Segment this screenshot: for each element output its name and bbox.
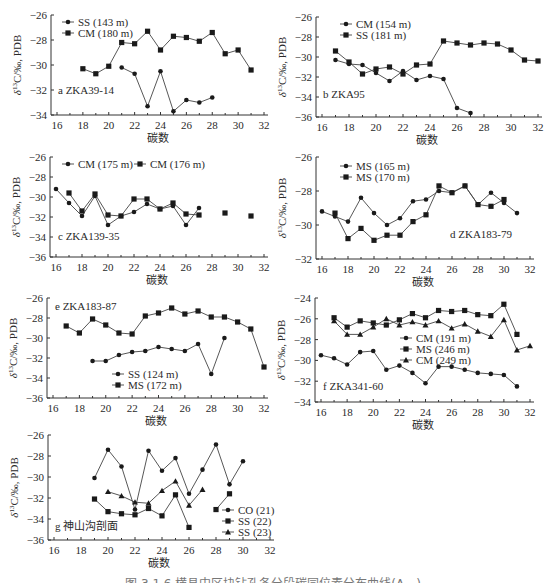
y-tick-label: −28 bbox=[27, 450, 45, 462]
x-tick-label: 30 bbox=[499, 263, 511, 275]
y-tick-label: −34 bbox=[294, 396, 312, 408]
figure-grid: −34−32−30−28−26161820222426283032碳数δ13C/… bbox=[0, 0, 546, 583]
legend-marker bbox=[66, 20, 71, 25]
y-tick-label: −32 bbox=[294, 375, 311, 387]
data-point bbox=[80, 66, 85, 71]
data-point bbox=[360, 71, 365, 76]
data-point bbox=[462, 367, 467, 372]
data-point bbox=[358, 350, 363, 355]
y-tick-label: −26 bbox=[295, 11, 313, 23]
data-point bbox=[241, 459, 246, 464]
y-axis-title: δ13C/‰, PDB bbox=[10, 177, 22, 237]
y-tick-label: −28 bbox=[295, 31, 313, 43]
legend: MS (165 m)MS (170 m) bbox=[340, 160, 410, 184]
x-tick-label: 22 bbox=[130, 544, 141, 556]
x-tick-label: 30 bbox=[506, 121, 518, 133]
legend: CM (154 m)SS (181 m) bbox=[340, 18, 411, 42]
data-point bbox=[248, 213, 253, 218]
x-axis-title: 碳数 bbox=[146, 273, 168, 286]
y-axis-title: δ13C/‰, PDB bbox=[11, 35, 23, 95]
panel-label: g 神山沟剖面 bbox=[55, 519, 118, 532]
series-cm-176-m- bbox=[66, 190, 253, 218]
y-tick-label: −36 bbox=[27, 534, 45, 546]
legend-label: CM (249 m) bbox=[416, 354, 471, 367]
data-point bbox=[501, 317, 507, 322]
data-point bbox=[131, 196, 136, 201]
data-point bbox=[200, 467, 205, 472]
data-point bbox=[222, 336, 227, 341]
legend-marker bbox=[116, 372, 121, 377]
data-point bbox=[449, 309, 454, 314]
data-point bbox=[145, 202, 150, 207]
x-axis-title: 碳数 bbox=[148, 556, 170, 569]
data-point bbox=[423, 315, 428, 320]
data-point bbox=[410, 311, 415, 316]
legend-label: SS (181 m) bbox=[356, 29, 406, 42]
x-tick-label: 24 bbox=[155, 119, 167, 131]
data-point bbox=[144, 196, 149, 201]
charts-svg: −34−32−30−28−26161820222426283032碳数δ13C/… bbox=[0, 0, 546, 583]
x-tick-label: 30 bbox=[498, 406, 510, 418]
data-point bbox=[105, 509, 110, 514]
x-tick-label: 16 bbox=[48, 402, 60, 414]
x-tick-label: 32 bbox=[259, 119, 270, 131]
legend-marker bbox=[225, 518, 230, 523]
data-point bbox=[146, 448, 151, 453]
data-point bbox=[173, 478, 179, 483]
y-axis-title: δ13C/‰, PDB bbox=[276, 178, 288, 238]
x-tick-label: 24 bbox=[155, 261, 167, 273]
y-tick-label: −36 bbox=[26, 392, 44, 404]
x-axis-title: 碳数 bbox=[416, 133, 438, 146]
y-tick-label: −26 bbox=[26, 292, 44, 304]
x-tick-label: 26 bbox=[452, 121, 464, 133]
data-point bbox=[169, 347, 174, 352]
data-point bbox=[360, 63, 365, 68]
legend-label: CM (176 m) bbox=[150, 158, 205, 171]
x-tick-label: 22 bbox=[129, 119, 140, 131]
data-point bbox=[345, 236, 350, 241]
data-point bbox=[501, 197, 506, 202]
x-tick-label: 22 bbox=[395, 263, 406, 275]
x-tick-label: 28 bbox=[479, 121, 491, 133]
data-point bbox=[119, 511, 124, 516]
x-tick-label: 26 bbox=[446, 406, 458, 418]
data-point bbox=[475, 328, 481, 333]
x-tick-label: 30 bbox=[232, 402, 244, 414]
data-point bbox=[173, 492, 178, 497]
data-point bbox=[495, 41, 500, 46]
data-point bbox=[515, 384, 520, 389]
legend-marker bbox=[403, 346, 408, 351]
data-point bbox=[436, 318, 442, 323]
data-point bbox=[468, 42, 473, 47]
x-tick-label: 30 bbox=[233, 261, 245, 273]
data-point bbox=[105, 489, 111, 494]
data-point bbox=[196, 212, 201, 217]
legend-marker bbox=[226, 508, 231, 513]
data-point bbox=[118, 213, 123, 218]
data-point bbox=[371, 238, 376, 243]
x-tick-label: 20 bbox=[371, 121, 383, 133]
x-tick-label: 24 bbox=[421, 263, 433, 275]
legend-marker bbox=[404, 336, 409, 341]
data-point bbox=[508, 47, 513, 52]
data-point bbox=[454, 40, 459, 45]
data-point bbox=[387, 64, 392, 69]
x-tick-label: 32 bbox=[533, 121, 544, 133]
x-tick-label: 24 bbox=[425, 121, 437, 133]
x-tick-label: 18 bbox=[77, 119, 89, 131]
data-point bbox=[156, 345, 161, 350]
legend: CM (175 m)CM (176 m) bbox=[62, 158, 205, 171]
data-point bbox=[488, 204, 493, 209]
x-tick-label: 18 bbox=[74, 402, 86, 414]
data-point bbox=[436, 308, 441, 313]
data-point bbox=[462, 183, 467, 188]
data-point bbox=[346, 59, 351, 64]
x-axis-title: 碳数 bbox=[147, 131, 169, 144]
x-tick-label: 16 bbox=[316, 406, 328, 418]
x-axis-title: 碳数 bbox=[412, 275, 434, 288]
data-point bbox=[160, 468, 165, 473]
y-tick-label: −26 bbox=[29, 151, 47, 163]
data-point bbox=[428, 74, 433, 79]
y-tick-label: −32 bbox=[295, 71, 312, 83]
y-tick-label: −34 bbox=[27, 513, 45, 525]
